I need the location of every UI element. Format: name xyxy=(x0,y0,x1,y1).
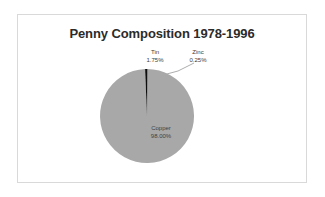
pie-plot-area: Tin 1.75% Zinc 0.25% Copper 98.00% xyxy=(18,15,308,184)
zinc-leader-line xyxy=(163,63,194,75)
pie-label-tin-name: Tin xyxy=(135,49,175,57)
pie-label-zinc: Zinc 0.25% xyxy=(176,49,220,64)
chart-frame: Penny Composition 1978-1996 Tin 1.75% Zi… xyxy=(17,14,307,183)
pie-label-zinc-name: Zinc xyxy=(176,49,220,57)
pie-label-copper-value: 98.00% xyxy=(126,133,196,141)
screenshot-root: Penny Composition 1978-1996 Tin 1.75% Zi… xyxy=(0,0,325,197)
pie-label-copper-name: Copper xyxy=(126,125,196,133)
pie-label-copper: Copper 98.00% xyxy=(126,125,196,140)
pie-chart-svg xyxy=(18,15,308,184)
pie-label-zinc-value: 0.25% xyxy=(176,57,220,65)
pie-label-tin: Tin 1.75% xyxy=(135,49,175,64)
pie-label-tin-value: 1.75% xyxy=(135,57,175,65)
